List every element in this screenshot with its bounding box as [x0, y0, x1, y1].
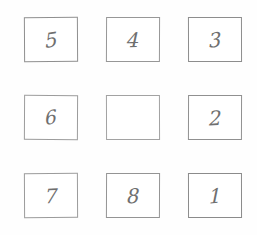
puzzle-tile[interactable]: 3: [188, 17, 242, 62]
puzzle-tile[interactable]: 5: [24, 17, 78, 62]
tile-label: 8: [127, 185, 140, 206]
tile-label: 4: [126, 29, 139, 49]
puzzle-tile[interactable]: 2: [188, 95, 242, 140]
puzzle-tile[interactable]: 8: [106, 173, 160, 218]
tile-label: 1: [209, 185, 222, 207]
puzzle-tile[interactable]: 4: [106, 17, 160, 62]
puzzle-tile[interactable]: 1: [188, 173, 242, 218]
tile-label: 2: [209, 107, 222, 128]
tile-label: 6: [44, 107, 57, 128]
puzzle-tile[interactable]: 7: [24, 173, 78, 218]
tile-label: 5: [44, 28, 58, 50]
tile-label: 3: [208, 29, 221, 51]
puzzle-board: 5 4 3 6 2 7 8 1: [0, 0, 257, 235]
tile-label: 7: [45, 185, 58, 206]
puzzle-grid: 5 4 3 6 2 7 8 1: [24, 17, 242, 218]
puzzle-tile[interactable]: 6: [24, 95, 78, 140]
puzzle-tile-blank[interactable]: [106, 95, 160, 140]
